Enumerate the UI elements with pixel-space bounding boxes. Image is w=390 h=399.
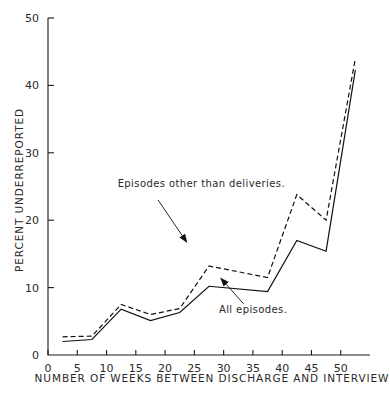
series-annotations: Episodes other than deliveries.All episo… (118, 178, 288, 316)
chart-figure: 05101520253035404550 01020304050 Episode… (0, 0, 390, 399)
line-chart: 05101520253035404550 01020304050 Episode… (0, 0, 390, 399)
y-tick-label: 20 (25, 214, 39, 227)
y-tick-label: 0 (32, 349, 39, 362)
series-line-dashed (63, 58, 356, 336)
y-tick-label: 10 (25, 282, 39, 295)
y-tick-label: 50 (25, 12, 39, 25)
annotation-label-episodes-other-than-deliveries: Episodes other than deliveries. (118, 178, 285, 189)
y-axis-ticks: 01020304050 (25, 12, 54, 362)
annotation-leader-episodes-other-than-deliveries (158, 200, 182, 236)
y-axis-title: PERCENT UNDERREPORTED (13, 108, 25, 272)
data-series (63, 58, 356, 341)
series-line-solid (63, 70, 356, 342)
annotation-leader-all-episodes (226, 284, 243, 304)
x-axis-title: NUMBER OF WEEKS BETWEEN DISCHARGE AND IN… (35, 372, 390, 384)
annotation-arrowhead-episodes-other-than-deliveries (179, 234, 187, 243)
y-tick-label: 40 (25, 79, 39, 92)
annotation-label-all-episodes: All episodes. (219, 304, 287, 315)
y-tick-label: 30 (25, 147, 39, 160)
